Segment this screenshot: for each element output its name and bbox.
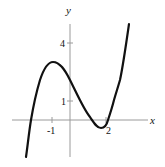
y-axis-label: y: [65, 4, 71, 16]
chart: y x -1 2 1 4: [0, 0, 165, 167]
y-tick-label-4: 4: [60, 38, 65, 49]
function-curve: [26, 24, 129, 157]
y-tick-label-1: 1: [61, 96, 66, 107]
x-tick-label-2: 2: [106, 125, 111, 136]
x-axis-label: x: [149, 114, 155, 126]
x-tick-label-neg1: -1: [47, 125, 55, 136]
